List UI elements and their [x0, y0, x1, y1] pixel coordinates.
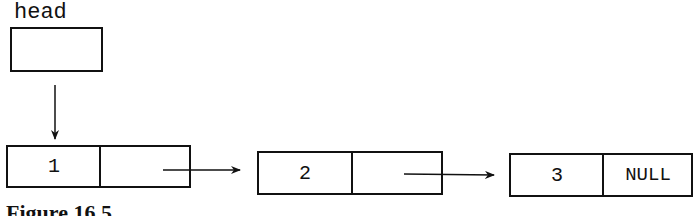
pointer-arrows [0, 0, 693, 216]
node-2-to-node-3-arrow-icon [404, 174, 494, 175]
figure-caption: Figure 16.5 [6, 200, 112, 216]
